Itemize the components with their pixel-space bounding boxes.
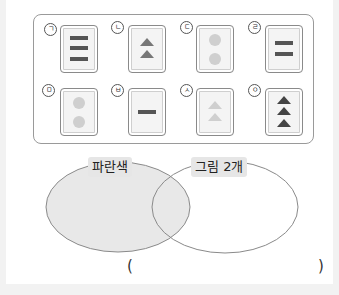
venn-left-label: 파란색 bbox=[88, 157, 132, 177]
answer-blank[interactable] bbox=[140, 258, 315, 278]
answer-close-paren: ) bbox=[318, 257, 324, 275]
venn-right-label: 그림 2개 bbox=[191, 157, 247, 177]
answer-open-paren: ( bbox=[127, 257, 133, 275]
venn-diagram bbox=[0, 0, 339, 295]
